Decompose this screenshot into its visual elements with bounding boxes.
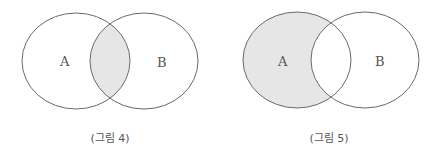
set-b-label: B bbox=[157, 55, 167, 70]
intersection-shade bbox=[90, 13, 198, 109]
figure-5-venn: A B bbox=[243, 12, 419, 108]
set-b-label: B bbox=[375, 54, 385, 69]
figure-5-caption: (그림 5) bbox=[279, 129, 379, 145]
set-a-label: A bbox=[59, 54, 70, 69]
figure-4-venn: A B bbox=[22, 13, 198, 109]
set-a-label: A bbox=[277, 54, 288, 69]
set-b-circle bbox=[311, 12, 419, 108]
figure-4-caption: (그림 4) bbox=[60, 129, 160, 145]
a-minus-b-shade bbox=[243, 12, 351, 108]
